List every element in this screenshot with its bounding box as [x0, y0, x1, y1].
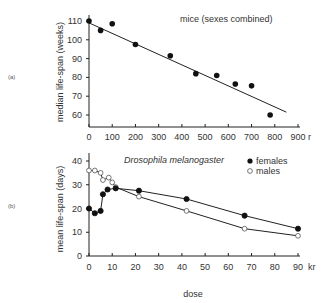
- y-tick-label: 70: [72, 91, 82, 101]
- y-ticks-a: 60708090100110: [67, 16, 89, 120]
- x-axis-label-dose: dose: [183, 289, 203, 299]
- x-tick-label: 50: [200, 262, 210, 272]
- data-point: [233, 81, 239, 87]
- chart-title-a: mice (sexes combined): [180, 14, 273, 24]
- x-tick-label: 30: [154, 262, 164, 272]
- x-tick-label: 100: [105, 132, 120, 142]
- x-tick-label: 0: [86, 132, 91, 142]
- data-point: [98, 28, 104, 34]
- female-point: [86, 206, 91, 211]
- series-line: [89, 171, 298, 236]
- series-males: [87, 168, 301, 238]
- female-point: [92, 211, 97, 216]
- male-point: [296, 233, 301, 238]
- y-tick-label: 20: [72, 204, 82, 214]
- x-tick-label: 80: [270, 262, 280, 272]
- data-point: [86, 18, 92, 24]
- figure: (a) median life-span (weeks) 60708090100…: [0, 0, 332, 303]
- y-tick-label: 40: [72, 156, 82, 166]
- male-point: [92, 168, 97, 173]
- legend-female-marker-icon: [247, 158, 252, 163]
- y-tick-label: 30: [72, 180, 82, 190]
- data-point: [214, 73, 220, 79]
- y-axis-label-a: median life-span (weeks): [55, 22, 65, 122]
- female-point: [295, 226, 300, 231]
- male-point: [101, 178, 106, 183]
- x-unit-b: kr: [308, 262, 316, 272]
- y-tick-label: 0: [77, 251, 82, 261]
- x-tick-label: 40: [177, 262, 187, 272]
- x-unit-a: r: [308, 132, 311, 142]
- male-point: [110, 180, 115, 185]
- panel-label-b: (b): [8, 203, 15, 209]
- x-tick-label: 800: [267, 132, 282, 142]
- x-tick-label: 300: [151, 132, 166, 142]
- data-point: [109, 21, 115, 27]
- y-tick-label: 90: [72, 54, 82, 64]
- male-point: [106, 175, 111, 180]
- y-tick-label: 80: [72, 72, 82, 82]
- legend-male-label: males: [256, 166, 281, 176]
- data-point: [167, 53, 173, 59]
- x-tick-label: 70: [247, 262, 257, 272]
- x-tick-label: 900: [290, 132, 305, 142]
- legend-female-label: females: [256, 156, 288, 166]
- chart-title-b: Drosophila melanogaster: [124, 155, 225, 165]
- y-tick-label: 10: [72, 227, 82, 237]
- legend-male-marker-icon: [248, 169, 253, 174]
- female-point: [242, 213, 247, 218]
- x-tick-label: 400: [174, 132, 189, 142]
- series-females: [86, 186, 300, 232]
- chart-b-drosophila: (b) mean life-span (days) 010203040 0102…: [8, 153, 316, 299]
- x-tick-label: 10: [107, 262, 117, 272]
- y-axis-label-b: mean life-span (days): [55, 166, 65, 253]
- chart-a-mice: (a) median life-span (weeks) 60708090100…: [8, 14, 311, 142]
- female-point: [113, 186, 118, 191]
- panel-label-a: (a): [8, 74, 15, 80]
- male-point: [242, 226, 247, 231]
- male-point: [87, 168, 92, 173]
- data-point: [267, 112, 273, 118]
- female-point: [136, 188, 141, 193]
- data-point: [133, 42, 139, 48]
- x-tick-label: 500: [198, 132, 213, 142]
- x-tick-label: 90: [293, 262, 303, 272]
- female-point: [105, 187, 110, 192]
- x-tick-label: 20: [130, 262, 140, 272]
- series-line: [89, 188, 298, 228]
- data-point: [249, 83, 255, 89]
- x-tick-label: 0: [86, 262, 91, 272]
- female-point: [184, 196, 189, 201]
- y-tick-label: 60: [72, 110, 82, 120]
- data-points-a: [86, 18, 273, 118]
- male-point: [98, 170, 103, 175]
- female-point: [100, 192, 105, 197]
- x-tick-label: 60: [223, 262, 233, 272]
- y-tick-label: 100: [67, 35, 82, 45]
- data-point: [193, 71, 199, 77]
- female-point: [98, 208, 103, 213]
- fit-line-a: [89, 23, 286, 112]
- x-tick-label: 700: [244, 132, 259, 142]
- x-tick-label: 600: [221, 132, 236, 142]
- x-tick-label: 200: [128, 132, 143, 142]
- legend: females males: [247, 156, 288, 176]
- male-point: [137, 194, 142, 199]
- male-point: [184, 208, 189, 213]
- y-tick-label: 110: [68, 16, 82, 26]
